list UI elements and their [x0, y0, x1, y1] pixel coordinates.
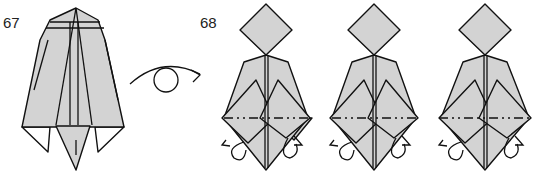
origami-diagram [0, 0, 541, 175]
turn-over-icon [130, 66, 200, 92]
step-68-view-2 [330, 4, 418, 170]
step-67-model [22, 8, 124, 170]
step-68-view-3 [439, 4, 531, 170]
step-68-view-1 [222, 4, 312, 170]
